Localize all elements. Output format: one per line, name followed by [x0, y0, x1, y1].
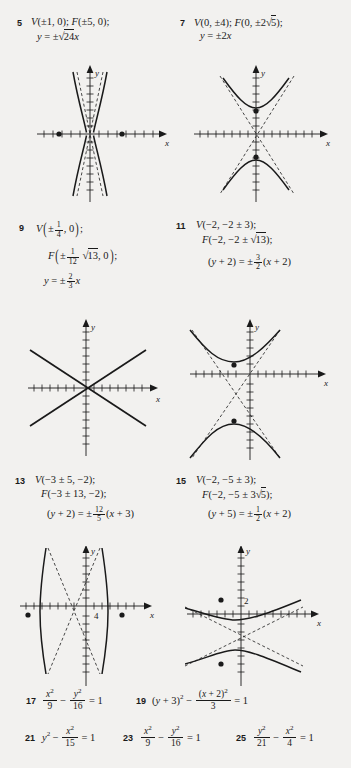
- answer-9-line-3: y = ±23x: [44, 273, 80, 291]
- graph-15: 2 x y: [185, 546, 343, 688]
- answer-19-equation: (y + 3)2 − (x + 2)23 = 1: [152, 688, 248, 711]
- focus-dot: [218, 597, 223, 602]
- answer-11-line-2: F(−2, −2 ± √13);: [202, 232, 273, 247]
- answer-25-equation: y221 − x24 = 1: [253, 725, 314, 748]
- answer-number-7: 7: [180, 17, 185, 29]
- x-axis-label: x: [149, 610, 154, 620]
- answer-15-line-2: F(−2, −5 ± 3√5);: [202, 487, 273, 502]
- answer-13-line-1: V(−3 ± 5, −2);: [35, 473, 95, 487]
- focus-dot: [25, 612, 30, 617]
- answer-number-9: 9: [19, 222, 24, 234]
- y-tick-label-2: 2: [244, 596, 249, 606]
- y-axis-label: y: [90, 322, 95, 332]
- answer-number-25: 25: [236, 732, 246, 744]
- focus-dot: [218, 661, 223, 666]
- answer-13-line-2: F(−3 ± 13, −2);: [41, 487, 106, 501]
- answer-11-line-1: V(−2, −2 ± 3);: [196, 218, 256, 232]
- focus-dot: [231, 362, 236, 367]
- answer-7-line-1: V(0, ±4); F(0, ±2√5);: [194, 15, 283, 30]
- x-axis-label: x: [164, 138, 169, 148]
- focus-dot: [119, 131, 124, 136]
- x-axis-label: x: [155, 394, 160, 404]
- answer-13-line-3: (y + 2) = ±125(x + 3): [47, 506, 134, 524]
- answer-number-17: 17: [26, 695, 36, 707]
- x-axis-label: x: [316, 618, 321, 628]
- focus-dot: [119, 612, 124, 617]
- focus-dot: [56, 131, 61, 136]
- x-axis-label: x: [325, 138, 330, 148]
- graph-5: x y: [33, 58, 173, 210]
- answer-number-23: 23: [123, 732, 133, 744]
- answer-number-13: 13: [15, 475, 25, 487]
- focus-dot: [231, 418, 236, 423]
- answer-9-line-2: F(±112 √13, 0);: [48, 245, 117, 268]
- y-axis-label: y: [260, 68, 265, 78]
- graph-9: x y: [24, 312, 169, 464]
- answer-9-line-1: V(±14, 0);: [36, 218, 83, 241]
- y-axis-label: y: [245, 546, 250, 556]
- graph-7: x y: [190, 58, 335, 210]
- answer-number-11: 11: [176, 220, 186, 232]
- answer-5-line-1: V(±1, 0); F(±5, 0);: [31, 15, 109, 29]
- answer-number-21: 21: [25, 732, 35, 744]
- answer-11-line-3: (y + 2) = ±32(x + 2): [208, 254, 291, 272]
- focus-dot: [253, 154, 258, 159]
- answer-number-5: 5: [17, 17, 22, 29]
- answer-5-line-2: y = ±√24x: [37, 29, 79, 44]
- y-axis-label: y: [90, 546, 95, 556]
- answer-21-equation: y2 − x215 = 1: [42, 725, 95, 748]
- answer-number-19: 19: [136, 695, 146, 707]
- y-axis-label: y: [254, 322, 259, 332]
- x-axis-label: x: [323, 378, 328, 388]
- answer-7-line-2: y = ±2x: [200, 29, 232, 43]
- focus-dot: [253, 108, 258, 113]
- answer-23-equation: x29 − y216 = 1: [140, 725, 201, 748]
- graph-11: x y: [188, 312, 336, 464]
- answer-17-equation: x29 − y216 = 1: [42, 688, 103, 711]
- graph-13: 4 x y: [18, 546, 173, 688]
- answer-number-15: 15: [176, 475, 186, 487]
- answer-15-line-3: (y + 5) = ±12(x + 2): [208, 506, 291, 524]
- x-tick-label-4: 4: [94, 611, 99, 621]
- y-axis-label: y: [94, 68, 99, 78]
- answer-key-page: 5 V(±1, 0); F(±5, 0); y = ±√24x 7 V(0, ±…: [0, 0, 351, 768]
- answer-15-line-1: V(−2, −5 ± 3);: [196, 473, 256, 487]
